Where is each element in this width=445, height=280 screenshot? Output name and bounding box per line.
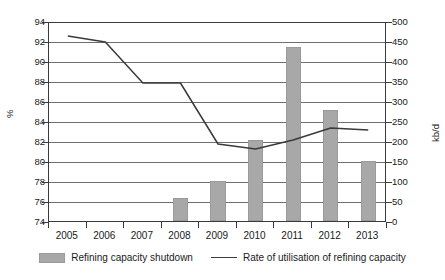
legend: Refining capacity shutdownRate of utilis…: [0, 252, 445, 263]
y-tick-label-left: 94: [15, 17, 45, 27]
y-tick-label-right: 500: [392, 17, 426, 27]
x-tick-label-2011: 2011: [273, 230, 311, 241]
y-tick-label-right: 50: [392, 197, 426, 207]
chart-container: % kb/d 9492908886848280787674 5004504003…: [0, 0, 445, 280]
x-tick-mark: [161, 222, 162, 228]
x-tick-mark: [311, 222, 312, 228]
x-tick-label-2009: 2009: [198, 230, 236, 241]
line-series: [49, 22, 387, 222]
x-tick-label-2006: 2006: [86, 230, 124, 241]
x-tick-mark: [386, 222, 387, 228]
legend-label: Rate of utilisation of refining capacity: [243, 252, 406, 263]
x-tick-label-2007: 2007: [123, 230, 161, 241]
y-tick-label-left: 92: [15, 37, 45, 47]
x-tick-mark: [123, 222, 124, 228]
y-tick-label-right: 100: [392, 177, 426, 187]
y-tick-label-left: 84: [15, 117, 45, 127]
x-tick-label-2005: 2005: [48, 230, 86, 241]
y-tick-label-left: 82: [15, 137, 45, 147]
x-tick-label-2012: 2012: [311, 230, 349, 241]
legend-item-shutdown[interactable]: Refining capacity shutdown: [39, 252, 193, 263]
legend-item-utilisation[interactable]: Rate of utilisation of refining capacity: [211, 252, 406, 263]
legend-label: Refining capacity shutdown: [71, 252, 193, 263]
x-tick-label-2010: 2010: [236, 230, 274, 241]
x-tick-mark: [348, 222, 349, 228]
y-tick-label-right: 450: [392, 37, 426, 47]
line-swatch-icon: [211, 257, 237, 258]
x-tick-mark: [48, 222, 49, 228]
x-tick-mark: [198, 222, 199, 228]
y-tick-label-right: 250: [392, 117, 426, 127]
y-axis-label-right: kb/d: [430, 124, 441, 142]
y-tick-label-left: 88: [15, 77, 45, 87]
y-tick-label-left: 78: [15, 177, 45, 187]
x-tick-mark: [236, 222, 237, 228]
utilisation-line-path: [68, 36, 368, 149]
y-tick-label-right: 300: [392, 97, 426, 107]
y-tick-label-left: 80: [15, 157, 45, 167]
y-tick-label-left: 90: [15, 57, 45, 67]
x-tick-mark: [86, 222, 87, 228]
x-tick-label-2008: 2008: [161, 230, 199, 241]
y-tick-label-right: 200: [392, 137, 426, 147]
y-tick-label-right: 150: [392, 157, 426, 167]
y-tick-label-right: 350: [392, 77, 426, 87]
x-tick-label-2013: 2013: [348, 230, 386, 241]
bar-swatch-icon: [39, 253, 65, 263]
y-tick-label-left: 76: [15, 197, 45, 207]
y-axis-label-left: %: [4, 110, 15, 118]
y-tick-label-right: 400: [392, 57, 426, 67]
y-tick-label-left: 74: [15, 217, 45, 227]
plot-area: [48, 22, 386, 222]
x-tick-mark: [273, 222, 274, 228]
y-tick-label-left: 86: [15, 97, 45, 107]
y-tick-label-right: 0: [392, 217, 426, 227]
